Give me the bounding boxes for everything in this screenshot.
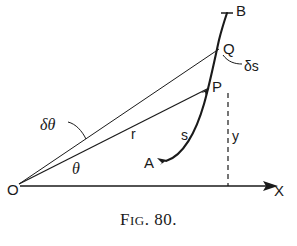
x-axis-group — [20, 181, 278, 191]
figure-container: B Q P A O X δs r s y δθ θ FIG. 80. — [0, 0, 297, 246]
point-label-p: P — [212, 79, 222, 94]
annotation-delta-s: δs — [244, 59, 259, 73]
annotation-theta: θ — [72, 161, 80, 177]
caption-smallcaps: IG — [130, 213, 145, 228]
delta-theta-leader — [68, 122, 86, 139]
figure-caption: FIG. 80. — [0, 210, 297, 230]
annotation-ordinate-y: y — [232, 129, 239, 143]
point-label-o: O — [7, 182, 19, 197]
point-label-a: A — [144, 155, 154, 170]
point-label-q: Q — [223, 41, 235, 56]
axis-label-x: X — [274, 183, 284, 198]
caption-prefix: F — [120, 210, 130, 229]
annotation-arc-s: s — [181, 128, 188, 142]
annotation-radius-r: r — [131, 127, 136, 141]
annotation-delta-theta: δθ — [40, 117, 55, 133]
point-label-b: B — [236, 3, 246, 18]
caption-number: . 80. — [145, 210, 177, 229]
